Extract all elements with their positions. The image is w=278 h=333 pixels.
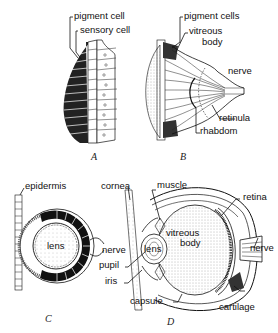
label-vitreous: vitreous xyxy=(189,25,223,36)
label-iris: iris xyxy=(105,275,117,286)
label-nerve-b: nerve xyxy=(228,65,252,76)
label-pigment-cells: pigment cells xyxy=(184,10,240,21)
label-body-d: body xyxy=(180,237,201,248)
caption-b: B xyxy=(180,151,186,162)
caption-c: C xyxy=(45,313,52,324)
panel-b: pigment cells vitreous body nerve retinu… xyxy=(146,10,252,162)
panel-a: pigment cell sensory cell A xyxy=(64,10,130,162)
label-nerve-c: nerve xyxy=(102,244,126,255)
label-lens-c: lens xyxy=(47,240,65,251)
label-nerve-d: nerve xyxy=(250,242,274,253)
panel-c: epidermis lens nerve C xyxy=(15,180,126,324)
label-retina: retina xyxy=(243,191,267,202)
caption-a: A xyxy=(90,151,98,162)
label-cornea: cornea xyxy=(101,180,131,191)
label-muscle: muscle xyxy=(157,179,187,190)
label-rhabdom: rhabdom xyxy=(200,125,238,136)
label-pigment-cell: pigment cell xyxy=(74,10,125,21)
label-body: body xyxy=(202,36,223,47)
caption-d: D xyxy=(166,316,175,327)
label-retinula: retinula xyxy=(219,112,251,123)
label-cartilage: cartilage xyxy=(219,301,255,312)
label-capsule: capsule xyxy=(130,295,163,306)
label-sensory-cell: sensory cell xyxy=(80,24,130,35)
label-pupil: pupil xyxy=(99,259,119,270)
label-lens-d: lens xyxy=(144,243,162,254)
eye-evolution-diagram: pigment cell sensory cell A pigme xyxy=(0,0,278,333)
label-epidermis: epidermis xyxy=(25,180,66,191)
